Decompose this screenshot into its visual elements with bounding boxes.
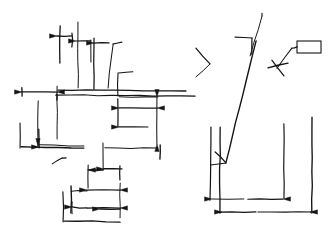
sketch-stroke	[118, 73, 119, 96]
sketch-stroke	[119, 97, 158, 98]
sketch-stroke	[71, 186, 72, 213]
sketch-stroke	[220, 127, 221, 213]
drawing-background	[0, 0, 328, 232]
sketch-stroke	[248, 199, 283, 200]
sketch-stroke	[312, 117, 313, 213]
sketch-stroke	[220, 212, 256, 213]
sketch-stroke	[120, 183, 121, 218]
sketch-stroke	[60, 26, 61, 63]
sketch-drawing-surface	[0, 0, 328, 232]
sketch-stroke	[63, 192, 64, 222]
sketch-canvas	[0, 0, 328, 232]
